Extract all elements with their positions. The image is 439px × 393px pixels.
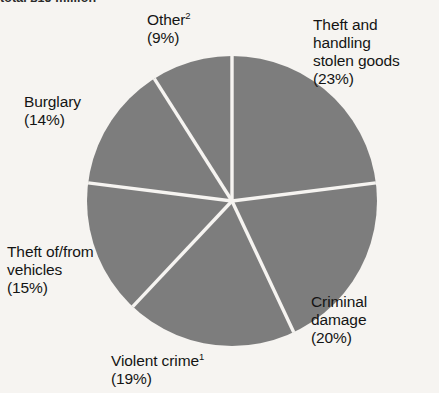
footnote-marker-1: 1: [199, 351, 204, 362]
pie-label-theft-vehicles-line2: vehicles: [7, 261, 62, 278]
pie-chart-figure: total £15 million Other2 (9%) Theft and …: [0, 0, 439, 393]
pie-label-burglary-percent: (14%): [24, 111, 81, 129]
pie-label-theft-handling-line2: handling: [313, 34, 371, 51]
pie-label-theft-vehicles-line1: Theft of/from: [7, 243, 94, 260]
pie-label-burglary: Burglary (14%): [24, 93, 81, 129]
pie-label-criminal-damage-percent: (20%): [311, 329, 367, 347]
pie-label-violent-percent: (19%): [111, 370, 204, 388]
pie-label-theft-vehicles-percent: (15%): [7, 279, 94, 297]
pie-label-other-text: Other: [147, 11, 185, 28]
pie-label-theft-of-from-vehicles: Theft of/from vehicles (15%): [7, 243, 94, 297]
pie-label-criminal-damage-line2: damage: [311, 311, 366, 328]
pie-label-violent-crime: Violent crime1 (19%): [111, 352, 204, 388]
pie-label-criminal-damage: Criminal damage (20%): [311, 293, 367, 347]
pie-label-criminal-damage-line1: Criminal: [311, 293, 367, 310]
pie-label-theft-handling-line3: stolen goods: [313, 52, 400, 69]
pie-label-theft-handling-stolen-goods: Theft and handling stolen goods (23%): [313, 16, 400, 88]
pie-label-theft-handling-line1: Theft and: [313, 16, 378, 33]
pie-label-burglary-text: Burglary: [24, 93, 81, 110]
pie-label-violent-text: Violent crime: [111, 352, 199, 369]
pie-label-other: Other2 (9%): [147, 11, 190, 47]
pie-label-theft-handling-percent: (23%): [313, 70, 400, 88]
pie-label-other-percent: (9%): [147, 29, 190, 47]
footnote-marker-2: 2: [185, 10, 190, 21]
